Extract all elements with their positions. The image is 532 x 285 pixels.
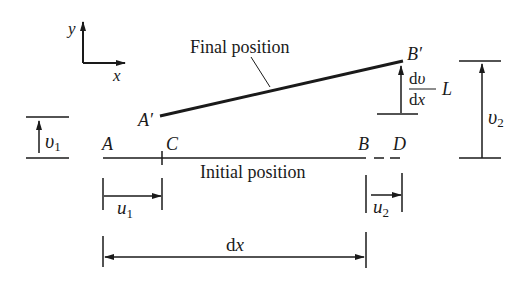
u1-label: u1 bbox=[117, 197, 133, 221]
initial-position-label: Initial position bbox=[200, 162, 306, 182]
point-b-prime-label: B′ bbox=[407, 44, 423, 64]
dx-dimension: dx bbox=[103, 232, 366, 268]
point-a-prime-label: A′ bbox=[137, 110, 154, 130]
slope-factor-l: L bbox=[441, 79, 452, 99]
x-axis-label: x bbox=[112, 66, 121, 85]
coordinate-axes: y x bbox=[66, 19, 125, 85]
initial-position: Initial position A C B D bbox=[101, 134, 406, 182]
u2-label: u2 bbox=[373, 196, 389, 220]
u2-dimension: u2 bbox=[366, 173, 402, 220]
final-position: Final position A′ B′ bbox=[137, 37, 423, 130]
dx-label: dx bbox=[226, 234, 245, 255]
v2-dimension: υ2 bbox=[459, 61, 504, 158]
v2-label: υ2 bbox=[488, 106, 504, 130]
slope-numerator: dυ bbox=[409, 69, 426, 88]
v1-dimension: υ1 bbox=[26, 117, 69, 158]
y-axis-label: y bbox=[66, 19, 76, 38]
point-a-label: A bbox=[101, 134, 114, 154]
slope-denominator: dx bbox=[409, 90, 426, 109]
beam-displacement-diagram: y x Final position A′ B′ Initial positio… bbox=[0, 0, 532, 285]
final-position-label: Final position bbox=[190, 37, 290, 57]
final-position-leader bbox=[251, 57, 270, 87]
slope-dimension: dυ dx L bbox=[377, 66, 452, 114]
u1-dimension: u1 bbox=[103, 178, 162, 221]
point-c-label: C bbox=[166, 134, 179, 154]
v1-label: υ1 bbox=[45, 130, 61, 154]
point-b-label: B bbox=[358, 134, 369, 154]
point-d-label: D bbox=[392, 134, 406, 154]
final-position-line bbox=[160, 61, 403, 116]
